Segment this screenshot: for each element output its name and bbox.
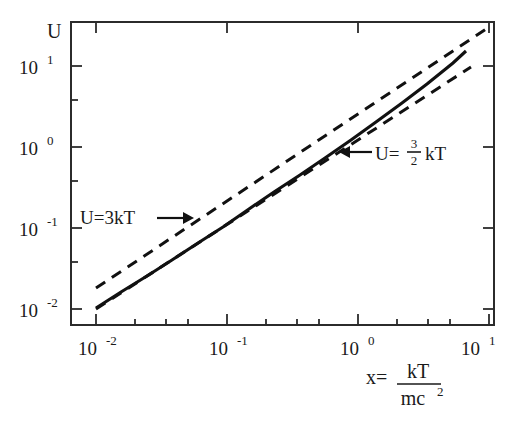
figure-container: U=3kT U= 3 2 kT U 10 1 10 0 10 -1 10 -2: [0, 0, 517, 422]
y-tick-label-10e1-exponent: 1: [47, 52, 54, 67]
x-axis-title-denominator-exponent: 2: [437, 384, 444, 399]
x-axis-title-prefix: x=: [366, 366, 387, 388]
y-tick-label-10e0-mantissa: 10: [19, 138, 38, 159]
annotation-three-halves-kt-numerator: 3: [411, 136, 418, 151]
y-tick-label-10em1-mantissa: 10: [19, 219, 38, 240]
annotation-3kt-label: U=3kT: [80, 207, 135, 228]
x-tick-label-10em1-mantissa: 10: [209, 338, 228, 359]
x-tick-label-10e1-exponent: 1: [489, 333, 496, 348]
y-tick-label-10em2-exponent: -2: [47, 295, 58, 310]
x-tick-label-10e0-mantissa: 10: [340, 338, 359, 359]
y-tick-label-10e0-exponent: 0: [47, 133, 54, 148]
y-tick-label-10em1-exponent: -1: [47, 214, 58, 229]
annotation-three-halves-kt-denominator: 2: [411, 153, 418, 168]
x-tick-label-10e0-exponent: 0: [368, 333, 375, 348]
y-axis-title: U: [47, 20, 62, 42]
y-tick-label-10e1-mantissa: 10: [19, 57, 38, 78]
annotation-three-halves-kt-suffix: kT: [425, 143, 447, 164]
annotation-three-halves-kt-prefix: U=: [375, 143, 399, 164]
x-axis-title-denominator-base: mc: [401, 387, 426, 409]
x-tick-label-10em1-exponent: -1: [237, 333, 248, 348]
log-log-plot: U=3kT U= 3 2 kT U 10 1 10 0 10 -1 10 -2: [0, 0, 517, 422]
x-tick-label-10em2-mantissa: 10: [78, 338, 97, 359]
y-tick-label-10em2-mantissa: 10: [19, 300, 38, 321]
x-tick-label-10e1-mantissa: 10: [461, 338, 480, 359]
x-tick-label-10em2-exponent: -2: [106, 333, 117, 348]
x-axis-title-numerator: kT: [407, 360, 429, 382]
